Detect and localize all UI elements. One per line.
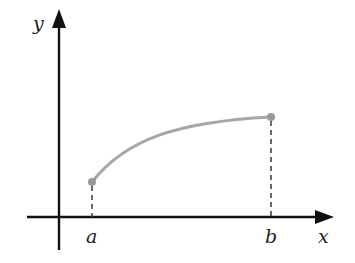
- b-label: b: [265, 225, 277, 247]
- a-label: a: [86, 225, 97, 247]
- endpoint-a: [88, 178, 96, 186]
- function-curve: [92, 117, 271, 182]
- function-graph-diagram: y x a b: [0, 0, 355, 263]
- y-axis-label: y: [32, 12, 44, 34]
- y-axis-arrow-icon: [52, 9, 66, 28]
- x-axis-label: x: [318, 225, 329, 247]
- graph-canvas: y x a b: [0, 0, 355, 263]
- endpoint-b: [267, 113, 275, 121]
- x-axis-arrow-icon: [315, 210, 334, 224]
